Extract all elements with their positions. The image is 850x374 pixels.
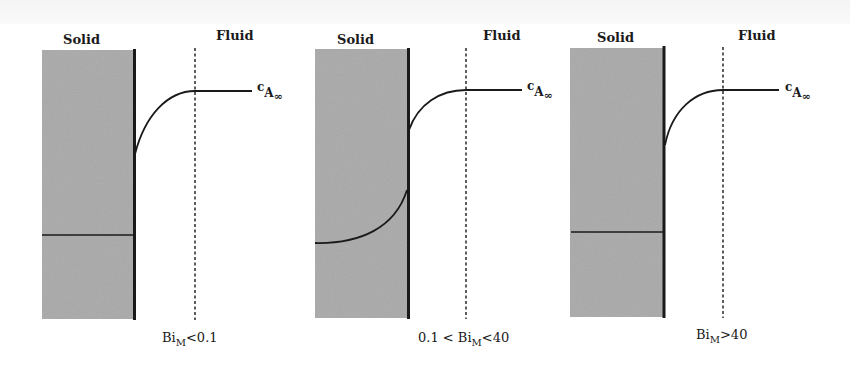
caption-main: Bi xyxy=(162,330,176,345)
caption-suffix: >40 xyxy=(720,327,747,342)
bulk-concentration-label: cA∞ xyxy=(257,80,283,94)
solid-region xyxy=(570,48,663,317)
solid-label: Solid xyxy=(63,32,100,47)
caption-main: Bi xyxy=(696,327,710,342)
biot-condition-caption: 0.1 < BiM<40 xyxy=(418,330,509,348)
fluid-label: Fluid xyxy=(216,28,254,43)
fluid-concentration-profile xyxy=(135,91,252,154)
panel-2 xyxy=(315,48,522,319)
panel-1 xyxy=(42,48,252,320)
caption-subscript: M xyxy=(710,334,720,345)
caption-subscript: M xyxy=(472,337,482,348)
caption-suffix: <40 xyxy=(482,330,509,345)
bulk-concentration-label: cA∞ xyxy=(527,79,553,93)
panel-3 xyxy=(570,46,779,318)
solid-label: Solid xyxy=(597,30,634,45)
solid-label: Solid xyxy=(337,32,374,47)
solid-region xyxy=(315,49,408,318)
caption-subscript: M xyxy=(176,337,186,348)
bulk-concentration-label: cA∞ xyxy=(785,80,811,94)
conc-subsubscript: ∞ xyxy=(274,90,283,103)
caption-suffix: <0.1 xyxy=(186,330,218,345)
conc-subsubscript: ∞ xyxy=(544,89,553,102)
conc-subscript: A xyxy=(792,86,801,100)
biot-condition-caption: BiM>40 xyxy=(696,327,747,345)
fluid-label: Fluid xyxy=(738,28,776,43)
conc-subsubscript: ∞ xyxy=(802,90,811,103)
caption-prefix: 0.1 < xyxy=(418,330,458,345)
fluid-label: Fluid xyxy=(483,28,521,43)
solid-region xyxy=(42,50,134,319)
biot-number-diagram xyxy=(0,0,850,374)
fluid-concentration-profile xyxy=(665,90,779,145)
conc-subscript: A xyxy=(264,86,273,100)
caption-main: Bi xyxy=(458,330,472,345)
biot-condition-caption: BiM<0.1 xyxy=(162,330,218,348)
conc-subscript: A xyxy=(534,85,543,99)
